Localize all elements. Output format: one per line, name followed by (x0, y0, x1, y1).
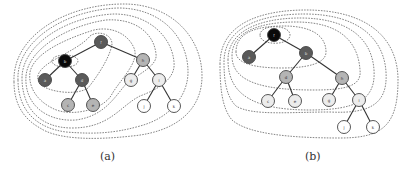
tree-node-a-i: i (153, 74, 166, 87)
node-label: j (142, 104, 144, 109)
tree-node-a-c: c (62, 99, 75, 112)
tree-node-b-b: b (300, 47, 313, 60)
tree-node-a-h: h (137, 54, 150, 67)
panel-b-caption: (b) (305, 150, 321, 163)
tree-node-b-h: h (336, 72, 349, 85)
tree-node-b-j: j (338, 121, 351, 134)
node-label: h (142, 58, 145, 63)
node-label: h (341, 76, 344, 81)
node-label: i (358, 98, 359, 103)
tree-node-a-e: e (87, 99, 100, 112)
node-label: b (305, 51, 308, 56)
tree-edges (45, 35, 373, 127)
panel-a-caption: (a) (100, 150, 115, 163)
tree-node-b-c: c (262, 95, 275, 108)
tree-node-b-g: g (323, 94, 336, 107)
panel-a-contours (14, 4, 202, 138)
tree-node-b-f: f (268, 29, 281, 42)
node-label: c (267, 99, 269, 104)
tree-node-b-d: d (280, 71, 293, 84)
tree-node-a-j: j (138, 100, 151, 113)
node-label: c (67, 103, 69, 108)
node-label: b (64, 59, 67, 64)
tree-node-a-b: b (59, 55, 72, 68)
tree-node-b-e: e (289, 95, 302, 108)
tree-node-b-a: a (243, 51, 256, 64)
tree-node-b-i: i (353, 94, 366, 107)
node-label: j (342, 125, 344, 130)
tree-node-a-g: g (125, 74, 138, 87)
node-label: d (81, 78, 84, 83)
node-label: d (285, 75, 288, 80)
figure-canvas: fbhadgicejkfabdhcegijk (0, 0, 417, 172)
panel-b-contours (220, 10, 398, 138)
node-label: g (328, 98, 331, 103)
tree-node-a-f: f (95, 36, 108, 49)
tree-node-a-a: a (39, 74, 52, 87)
node-label: g (130, 78, 133, 83)
tree-node-a-k: k (168, 100, 181, 113)
tree-node-a-d: d (76, 74, 89, 87)
node-label: i (158, 78, 159, 83)
tree-node-b-k: k (367, 121, 380, 134)
tree-nodes: fbhadgicejkfabdhcegijk (39, 29, 380, 134)
